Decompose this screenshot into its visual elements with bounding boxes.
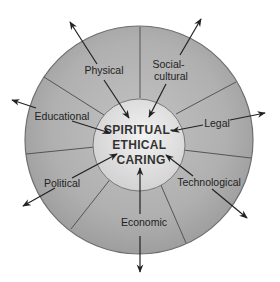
label-economic: Economic xyxy=(121,216,167,228)
label-physical: Physical xyxy=(84,64,123,76)
label-educational: Educational xyxy=(35,110,90,122)
label-technological: Technological xyxy=(177,176,241,188)
label-political: Political xyxy=(44,177,80,189)
spiritual-ethical-caring-diagram: SPIRITUAL- ETHICAL CARING Physical Socia xyxy=(0,0,280,282)
label-social-cultural: Social- cultural xyxy=(152,58,187,82)
label-legal: Legal xyxy=(204,117,230,129)
